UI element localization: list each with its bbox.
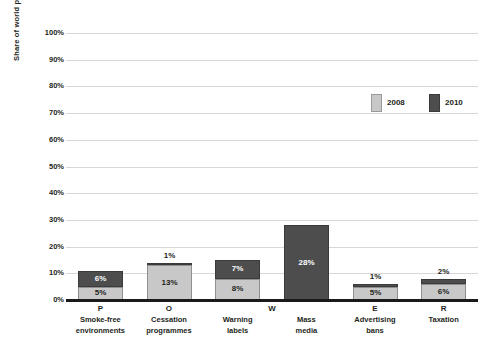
- x-axis-category-line: Warning: [203, 314, 272, 325]
- bar-group[interactable]: 6%2%: [421, 33, 466, 300]
- gridline: [66, 113, 478, 114]
- bar-segment-2010[interactable]: [421, 279, 466, 284]
- legend-entry[interactable]: 2008: [371, 94, 405, 112]
- gridline: [66, 167, 478, 168]
- x-axis-category-label: Cessationprogrammes: [135, 314, 204, 336]
- bar-value-label-2010: 6%: [78, 274, 123, 284]
- bar-value-label-2008: 8%: [215, 284, 260, 294]
- x-axis-category-label: Warninglabels: [203, 314, 272, 336]
- bar-value-label-2010: 2%: [421, 267, 466, 277]
- bar-segment-2010[interactable]: [147, 263, 192, 266]
- bar-value-label-2008: 5%: [353, 288, 398, 298]
- gridline: [66, 33, 478, 34]
- bar-value-label-2008: 5%: [78, 288, 123, 298]
- gridline: [66, 220, 478, 221]
- x-axis-baseline: [66, 299, 478, 302]
- x-axis-mpower-letter: O: [135, 303, 204, 314]
- bar-group[interactable]: 5%1%: [353, 33, 398, 300]
- y-axis-tick-label: 40%: [18, 188, 64, 197]
- bar-value-label-2010: 1%: [147, 251, 192, 261]
- gridline: [66, 60, 478, 61]
- bar-value-label-2010: 7%: [215, 264, 260, 274]
- bar-value-label-2010: 1%: [353, 272, 398, 282]
- legend-label: 2010: [445, 98, 463, 108]
- bar-group[interactable]: 5%6%: [78, 33, 123, 300]
- legend-color-swatch: [371, 94, 382, 112]
- x-axis-mpower-letter: E: [341, 303, 410, 314]
- gridline: [66, 247, 478, 248]
- x-axis-mpower-letter: W: [238, 303, 307, 314]
- x-axis-labels: Smoke-freeenvironmentsCessationprogramme…: [66, 303, 478, 355]
- x-axis-category-label: Advertisingbans: [341, 314, 410, 336]
- x-axis-category-label: Massmedia: [272, 314, 341, 336]
- y-axis-tick-label: 90%: [18, 55, 64, 64]
- y-axis-tick-label: 0%: [18, 295, 64, 304]
- x-axis-category-line: programmes: [135, 325, 204, 336]
- x-axis-mpower-letter: P: [66, 303, 135, 314]
- gridline: [66, 140, 478, 141]
- y-axis-tick-label: 20%: [18, 242, 64, 251]
- x-axis-category-line: environments: [66, 325, 135, 336]
- x-axis-category-label: Taxation: [409, 314, 478, 325]
- plot-area: 5%6%13%1%8%7%28%5%1%6%2%: [66, 33, 478, 300]
- y-axis-tick-label: 70%: [18, 108, 64, 117]
- y-axis-tick-label: 50%: [18, 162, 64, 171]
- y-axis-tick-label: 80%: [18, 81, 64, 90]
- x-axis-mpower-letter: R: [409, 303, 478, 314]
- x-axis-category-line: bans: [341, 325, 410, 336]
- x-axis-category-line: Mass: [272, 314, 341, 325]
- y-axis-tick-label: 60%: [18, 135, 64, 144]
- bar-group[interactable]: 28%: [284, 33, 329, 300]
- bar-value-label-2008: 6%: [421, 287, 466, 297]
- bar-segment-2010[interactable]: [353, 284, 398, 287]
- x-axis-category-line: Taxation: [409, 314, 478, 325]
- legend-label: 2008: [387, 98, 405, 108]
- x-axis-category-line: media: [272, 325, 341, 336]
- legend-entry[interactable]: 2010: [429, 94, 463, 112]
- y-axis-tick-label: 30%: [18, 215, 64, 224]
- bar-value-label-2008: 13%: [147, 278, 192, 288]
- x-axis-category-label: Smoke-freeenvironments: [66, 314, 135, 336]
- stacked-bar-chart: Share of world populat on 0%10%20%30%40%…: [0, 0, 493, 355]
- x-axis-category-line: Cessation: [135, 314, 204, 325]
- y-axis-tick-label: 10%: [18, 268, 64, 277]
- y-axis-tick-labels: 0%10%20%30%40%50%60%70%80%90%100%: [12, 0, 64, 355]
- y-axis-tick-label: 100%: [18, 28, 64, 37]
- legend-color-swatch: [429, 94, 440, 112]
- x-axis-category-line: Advertising: [341, 314, 410, 325]
- x-axis-category-line: Smoke-free: [66, 314, 135, 325]
- bar-group[interactable]: 13%1%: [147, 33, 192, 300]
- gridline: [66, 273, 478, 274]
- x-axis-category-line: labels: [203, 325, 272, 336]
- gridline: [66, 193, 478, 194]
- bar-group[interactable]: 8%7%: [215, 33, 260, 300]
- bar-value-label-2010: 28%: [284, 258, 329, 268]
- gridline: [66, 86, 478, 87]
